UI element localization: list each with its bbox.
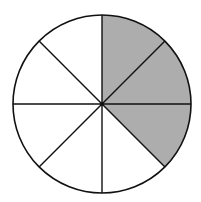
center-dot	[100, 102, 104, 106]
fraction-circle-diagram	[0, 0, 201, 202]
